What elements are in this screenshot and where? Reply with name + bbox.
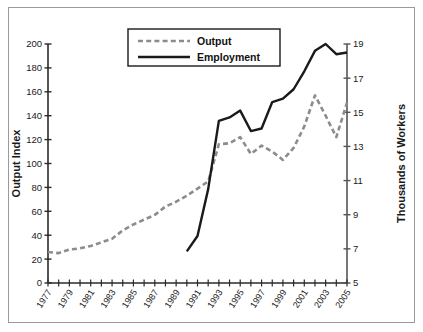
line-chart: 0204060801001201401601802005791113151719… xyxy=(0,0,423,332)
right-axis-tick-label: 19 xyxy=(353,38,364,49)
x-axis-tick-label: 2001 xyxy=(291,288,310,310)
x-axis-tick-label: 1997 xyxy=(248,288,267,310)
left-axis-tick-label: 100 xyxy=(26,158,42,169)
x-axis-tick-label: 1989 xyxy=(163,288,182,310)
left-axis-tick-label: 40 xyxy=(31,230,42,241)
series-line-output xyxy=(48,95,347,253)
x-axis-tick-label: 1987 xyxy=(141,288,160,310)
x-axis-tick-label: 1981 xyxy=(77,288,96,310)
left-axis-tick-label: 0 xyxy=(37,277,42,288)
legend-label-output: Output xyxy=(197,35,232,47)
left-axis-title: Output Index xyxy=(10,129,22,198)
left-axis-tick-label: 140 xyxy=(26,110,42,121)
left-axis-tick-label: 120 xyxy=(26,134,42,145)
x-axis-tick-label: 1995 xyxy=(227,288,246,310)
right-axis-tick-label: 9 xyxy=(353,209,358,220)
left-axis-tick-label: 160 xyxy=(26,86,42,97)
x-axis-tick-label: 1979 xyxy=(56,288,75,310)
right-axis-tick-label: 11 xyxy=(353,175,363,186)
x-axis-tick-label: 1993 xyxy=(205,288,224,310)
right-axis-tick-label: 17 xyxy=(353,73,364,84)
chart-figure: 0204060801001201401601802005791113151719… xyxy=(0,0,423,332)
legend-label-employment: Employment xyxy=(197,51,261,63)
left-axis-tick-label: 20 xyxy=(31,254,42,265)
right-axis-tick-label: 5 xyxy=(353,277,358,288)
x-axis-tick-label: 1991 xyxy=(184,288,203,310)
x-axis-tick-label: 2005 xyxy=(333,288,352,310)
right-axis-tick-label: 7 xyxy=(353,243,358,254)
x-axis-tick-label: 2003 xyxy=(312,288,331,310)
x-axis-tick-label: 1983 xyxy=(98,288,117,310)
right-axis-tick-label: 13 xyxy=(353,141,364,152)
x-axis-tick-label: 1977 xyxy=(34,288,53,310)
left-axis-tick-label: 200 xyxy=(26,38,42,49)
x-axis-tick-label: 1985 xyxy=(120,288,139,310)
right-axis-title: Thousands of Workers xyxy=(395,104,407,223)
right-axis-tick-label: 15 xyxy=(353,107,364,118)
left-axis-tick-label: 80 xyxy=(31,182,42,193)
left-axis-tick-label: 180 xyxy=(26,62,42,73)
left-axis-tick-label: 60 xyxy=(31,206,42,217)
x-axis-tick-label: 1999 xyxy=(269,288,288,310)
